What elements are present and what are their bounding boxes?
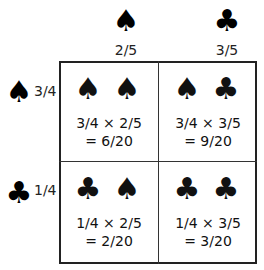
spade-icon: ♠ [172, 74, 202, 104]
cell-result: = 6/20 [60, 133, 158, 149]
cell-expression: 1/4 × 2/5 [60, 215, 158, 231]
cell-result: = 2/20 [60, 233, 158, 249]
club-icon: ♣ [172, 174, 202, 204]
cell-result: = 9/20 [159, 133, 257, 149]
row-club-probability: 1/4 [34, 183, 56, 197]
club-icon: ♣ [211, 174, 241, 204]
row-spade-probability: 3/4 [34, 84, 56, 98]
cell-expression: 1/4 × 3/5 [159, 215, 257, 231]
cell-spade-club: ♠ ♣ 3/4 × 3/5 = 9/20 [159, 62, 257, 162]
spade-icon: ♠ [73, 74, 103, 104]
column-spade-icon: ♠ [111, 6, 141, 36]
row-spade-icon: ♠ [4, 77, 34, 107]
club-icon: ♣ [211, 74, 241, 104]
cell-club-club: ♣ ♣ 1/4 × 3/5 = 3/20 [159, 162, 257, 262]
cell-expression: 3/4 × 3/5 [159, 115, 257, 131]
column-spade-probability: 2/5 [106, 43, 146, 57]
cell-expression: 3/4 × 2/5 [60, 115, 158, 131]
spade-icon: ♠ [112, 74, 142, 104]
cell-spade-spade: ♠ ♠ 3/4 × 2/5 = 6/20 [60, 62, 158, 162]
column-club-probability: 3/5 [207, 43, 247, 57]
column-club-icon: ♣ [212, 6, 242, 36]
cell-result: = 3/20 [159, 233, 257, 249]
row-club-icon: ♣ [4, 178, 34, 208]
club-icon: ♣ [73, 174, 103, 204]
cell-club-spade: ♣ ♠ 1/4 × 2/5 = 2/20 [60, 162, 158, 262]
spade-icon: ♠ [112, 174, 142, 204]
